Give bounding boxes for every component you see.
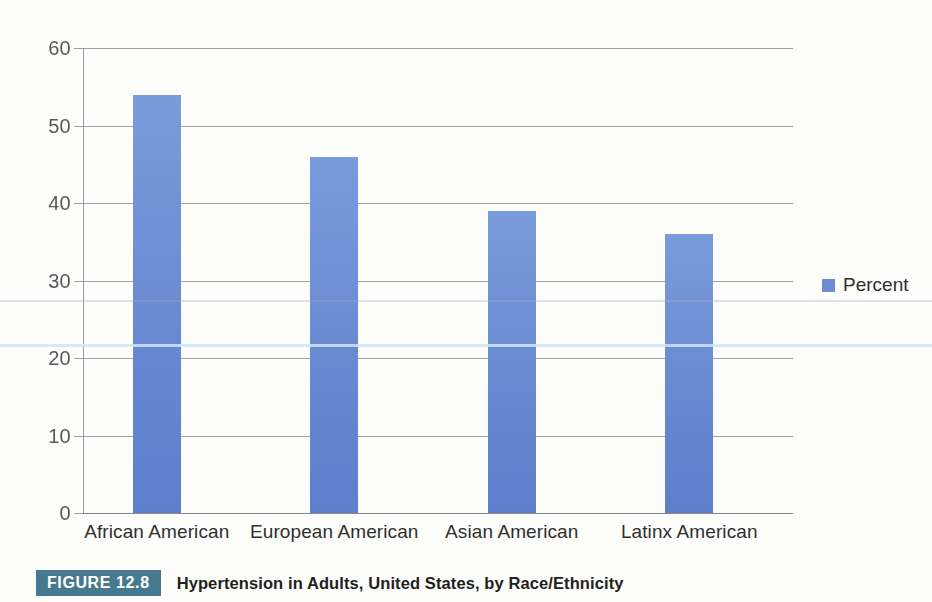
plot-area: 0102030405060 — [83, 48, 793, 513]
y-axis-label-60: 60 — [48, 37, 71, 60]
x-axis-label-2: Asian American — [445, 521, 578, 543]
gridline-0: 0 — [83, 513, 793, 514]
legend-swatch-percent — [822, 279, 835, 292]
chart-legend: Percent — [822, 274, 908, 296]
y-tick-60 — [74, 48, 83, 49]
figure-number-badge: FIGURE 12.8 — [36, 570, 161, 596]
figure-caption: FIGURE 12.8 Hypertension in Adults, Unit… — [36, 570, 624, 596]
legend-label-percent: Percent — [843, 274, 908, 296]
y-axis-label-40: 40 — [48, 192, 71, 215]
y-axis-label-20: 20 — [48, 347, 71, 370]
y-axis-label-30: 30 — [48, 269, 71, 292]
figure-container: 0102030405060 Percent African AmericanEu… — [0, 0, 932, 602]
bar-chart: 0102030405060 Percent African AmericanEu… — [0, 0, 932, 560]
y-tick-40 — [74, 203, 83, 204]
y-axis-label-50: 50 — [48, 114, 71, 137]
gridline-40: 40 — [83, 203, 793, 204]
y-axis-label-10: 10 — [48, 424, 71, 447]
y-tick-50 — [74, 126, 83, 127]
gridline-60: 60 — [83, 48, 793, 49]
y-tick-10 — [74, 436, 83, 437]
bar-african-american — [133, 95, 181, 514]
y-axis-label-0: 0 — [60, 502, 71, 525]
figure-caption-title: Hypertension in Adults, United States, b… — [177, 574, 624, 593]
x-axis-label-3: Latinx American — [621, 521, 758, 543]
y-tick-0 — [74, 513, 83, 514]
bar-asian-american — [488, 211, 536, 513]
bar-latinx-american — [665, 234, 713, 513]
bar-european-american — [310, 157, 358, 514]
y-tick-20 — [74, 358, 83, 359]
x-axis-label-1: European American — [250, 521, 419, 543]
gridline-50: 50 — [83, 126, 793, 127]
y-tick-30 — [74, 281, 83, 282]
x-axis-label-0: African American — [84, 521, 229, 543]
